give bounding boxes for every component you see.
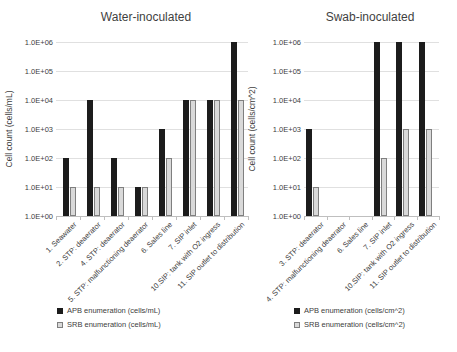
x-axis-tick	[200, 216, 201, 220]
apb-bar	[207, 100, 213, 216]
y-tick-label: 1.0E+02	[261, 154, 301, 163]
srb-bar	[214, 100, 220, 216]
srb-bar	[142, 187, 148, 216]
x-axis-tick	[327, 216, 328, 220]
dual-bar-chart-figure: Water-inoculated Swab-inoculated Cell co…	[0, 0, 457, 352]
x-axis-tick	[349, 216, 350, 220]
srb-bar	[313, 187, 319, 216]
x-axis-tick	[439, 216, 440, 220]
legend-item-srb-right: SRB enumeration (cells/cm^2)	[294, 320, 405, 329]
x-axis-tick	[128, 216, 129, 220]
apb-bar	[87, 100, 93, 216]
srb-bar	[238, 100, 244, 216]
x-axis-tick	[224, 216, 225, 220]
srb-swatch-icon	[57, 322, 63, 328]
y-tick-label: 1.0E+05	[13, 67, 53, 76]
legend-left: APB enumeration (cells/mL) SRB enumerati…	[57, 306, 161, 334]
srb-bar	[118, 187, 124, 216]
x-axis-tick	[56, 216, 57, 220]
apb-bar	[63, 158, 69, 216]
apb-bar	[306, 129, 312, 216]
gridline	[56, 42, 248, 43]
y-axis-title-right: Cell count (cells/cm^2)	[247, 86, 257, 171]
apb-bar	[111, 158, 117, 216]
srb-swatch-icon	[294, 322, 300, 328]
srb-bar	[381, 158, 387, 216]
gridline	[56, 71, 248, 72]
legend-label-apb-right: APB enumeration (cells/cm^2)	[304, 306, 405, 315]
x-axis-tick	[248, 216, 249, 220]
y-tick-label: 1.0E+03	[261, 125, 301, 134]
apb-bar	[183, 100, 189, 216]
y-tick-label: 1.0E+00	[13, 212, 53, 221]
x-axis-tick	[417, 216, 418, 220]
srb-bar	[403, 129, 409, 216]
srb-bar	[426, 129, 432, 216]
apb-bar	[396, 42, 402, 216]
x-axis-tick	[80, 216, 81, 220]
legend-label-apb-left: APB enumeration (cells/mL)	[67, 306, 160, 315]
y-tick-label: 1.0E+06	[13, 38, 53, 47]
y-tick-label: 1.0E+03	[13, 125, 53, 134]
srb-bar	[70, 187, 76, 216]
legend-item-srb-left: SRB enumeration (cells/mL)	[57, 320, 161, 329]
legend-label-srb-right: SRB enumeration (cells/cm^2)	[304, 320, 405, 329]
legend-right: APB enumeration (cells/cm^2) SRB enumera…	[294, 306, 405, 334]
chart-title-water-inoculated: Water-inoculated	[50, 10, 242, 24]
x-axis-tick	[104, 216, 105, 220]
y-tick-label: 1.0E+01	[261, 183, 301, 192]
legend-label-srb-left: SRB enumeration (cells/mL)	[67, 320, 161, 329]
y-tick-label: 1.0E+04	[261, 96, 301, 105]
y-tick-label: 1.0E+06	[261, 38, 301, 47]
srb-bar	[190, 100, 196, 216]
apb-bar	[419, 42, 425, 216]
apb-bar	[374, 42, 380, 216]
apb-swatch-icon	[57, 308, 63, 314]
chart-title-swab-inoculated: Swab-inoculated	[300, 10, 440, 24]
y-tick-label: 1.0E+00	[261, 212, 301, 221]
x-axis-tick	[394, 216, 395, 220]
legend-item-apb-right: APB enumeration (cells/cm^2)	[294, 306, 405, 315]
x-axis-tick	[304, 216, 305, 220]
apb-swatch-icon	[294, 308, 300, 314]
srb-bar	[166, 158, 172, 216]
y-tick-label: 1.0E+04	[13, 96, 53, 105]
x-axis-tick	[372, 216, 373, 220]
apb-bar	[135, 187, 141, 216]
legend-item-apb-left: APB enumeration (cells/mL)	[57, 306, 161, 315]
y-tick-label: 1.0E+05	[261, 67, 301, 76]
srb-bar	[94, 187, 100, 216]
apb-bar	[231, 42, 237, 216]
y-tick-label: 1.0E+02	[13, 154, 53, 163]
x-axis-tick	[152, 216, 153, 220]
x-axis-tick	[176, 216, 177, 220]
apb-bar	[159, 129, 165, 216]
y-tick-label: 1.0E+01	[13, 183, 53, 192]
